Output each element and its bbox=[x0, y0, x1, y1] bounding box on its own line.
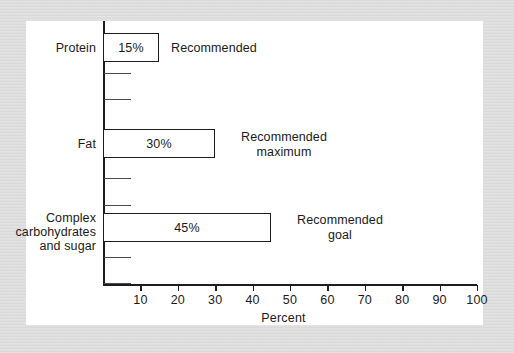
category-label-line: carbohydrates bbox=[0, 225, 96, 239]
annotation-line: goal bbox=[282, 228, 398, 243]
x-axis-tick bbox=[477, 285, 478, 291]
category-label-line: Protein bbox=[16, 41, 96, 55]
minor-rule bbox=[104, 283, 131, 284]
x-axis-title-text: Percent bbox=[261, 311, 305, 325]
x-axis-tick bbox=[178, 285, 179, 291]
bar-value-protein: 15% bbox=[103, 41, 159, 55]
x-axis-tick bbox=[253, 285, 254, 291]
x-axis-tick-label: 10 bbox=[120, 293, 160, 307]
annotation-line: Recommended bbox=[226, 130, 342, 145]
x-axis-tick bbox=[402, 285, 403, 291]
x-axis-tick-label: 20 bbox=[158, 293, 198, 307]
minor-rule bbox=[104, 178, 131, 179]
x-axis-tick bbox=[290, 285, 291, 291]
annotation-complex-carbohydrates: Recommended goal bbox=[282, 213, 398, 242]
x-axis-tick-label: 80 bbox=[382, 293, 422, 307]
screenshot-root: 102030405060708090100 Percent Protein 15… bbox=[0, 0, 514, 353]
bar-value-complex-carbohydrates: 45% bbox=[103, 221, 271, 235]
category-label-line: and sugar bbox=[0, 239, 96, 253]
x-axis-tick bbox=[440, 285, 441, 291]
annotation-line: Recommended bbox=[171, 41, 281, 56]
x-axis-tick-label: 30 bbox=[195, 293, 235, 307]
minor-rule bbox=[104, 99, 131, 100]
annotation-line: maximum bbox=[226, 145, 342, 160]
x-axis-tick bbox=[140, 285, 141, 291]
annotation-fat: Recommended maximum bbox=[226, 130, 342, 159]
chart-figure-panel: 102030405060708090100 Percent Protein 15… bbox=[26, 21, 483, 325]
annotation-protein: Recommended bbox=[171, 41, 281, 56]
x-axis-tick-label: 90 bbox=[420, 293, 460, 307]
annotation-line: Recommended bbox=[282, 213, 398, 228]
category-label-fat: Fat bbox=[16, 137, 96, 151]
category-label-protein: Protein bbox=[16, 41, 96, 55]
x-axis-tick-label: 60 bbox=[307, 293, 347, 307]
bar-value-fat: 30% bbox=[103, 137, 215, 151]
x-axis-title: Percent bbox=[26, 311, 483, 325]
minor-rule bbox=[104, 257, 131, 258]
category-label-line: Complex bbox=[0, 211, 96, 225]
x-axis-tick bbox=[215, 285, 216, 291]
x-axis-tick-label: 40 bbox=[233, 293, 273, 307]
minor-rule bbox=[104, 205, 131, 206]
x-axis-tick bbox=[327, 285, 328, 291]
x-axis-tick-label: 100 bbox=[457, 293, 497, 307]
minor-rule bbox=[104, 73, 131, 74]
category-label-line: Fat bbox=[16, 137, 96, 151]
x-axis-tick-label: 70 bbox=[345, 293, 385, 307]
category-label-complex-carbohydrates: Complex carbohydrates and sugar bbox=[0, 211, 96, 253]
x-axis-tick bbox=[365, 285, 366, 291]
x-axis-tick-label: 50 bbox=[270, 293, 310, 307]
